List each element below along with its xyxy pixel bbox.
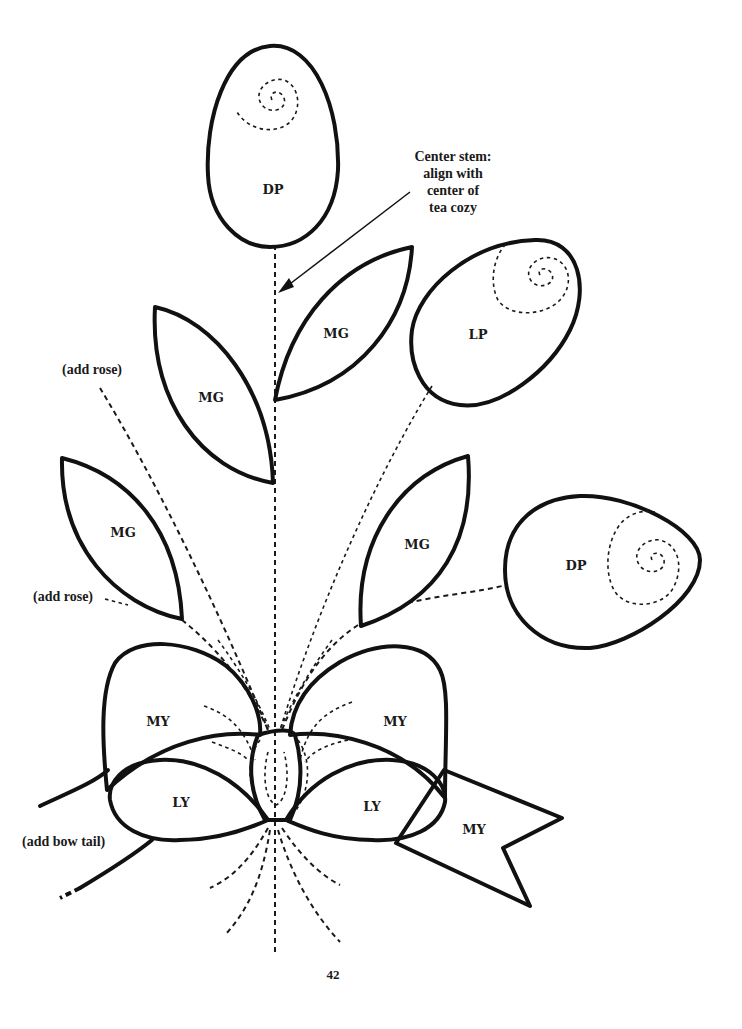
top-petal-piece: DP bbox=[208, 46, 338, 247]
spiral-guide bbox=[608, 511, 679, 604]
note-line: center of bbox=[427, 183, 480, 198]
piece-label: LY bbox=[363, 799, 381, 814]
upper-left-leaf-piece: MG bbox=[155, 307, 273, 483]
spiral-guide bbox=[493, 245, 568, 313]
piece-label: MG bbox=[323, 326, 349, 341]
piece-label: DP bbox=[565, 558, 586, 573]
lower-left-leaf-stem bbox=[182, 620, 268, 730]
note-line: align with bbox=[423, 166, 483, 181]
piece-label: LY bbox=[172, 795, 190, 810]
piece-label: LP bbox=[469, 327, 488, 342]
add-rose-note-upper: (add rose) bbox=[62, 362, 122, 378]
piece-label: MY bbox=[146, 714, 170, 729]
page-number: 42 bbox=[327, 967, 340, 982]
note-line: tea cozy bbox=[429, 200, 477, 215]
left-tail-upper-edge bbox=[40, 770, 108, 806]
fold-line bbox=[305, 740, 348, 762]
spiral-guide bbox=[236, 79, 298, 129]
light-petal-piece: LP bbox=[411, 240, 580, 405]
piece-label: MY bbox=[383, 714, 407, 729]
bow-left-inner-piece: LY bbox=[110, 760, 268, 840]
upper-left-rose-stem bbox=[100, 388, 268, 730]
lower-right-leaf-piece: MG bbox=[360, 456, 468, 626]
piece-label: DP bbox=[262, 182, 283, 197]
piece-label: MG bbox=[404, 537, 430, 552]
piece-label: MG bbox=[198, 390, 224, 405]
tail-fan-line bbox=[278, 830, 340, 942]
add-bow-tail-note: (add bow tail) bbox=[22, 834, 106, 850]
piece-label: MY bbox=[462, 822, 486, 837]
center-stem-note: Center stem: align with center of tea co… bbox=[414, 149, 491, 215]
arrowhead-icon bbox=[278, 278, 294, 293]
fold-line bbox=[300, 702, 352, 760]
light-petal-stem bbox=[280, 386, 432, 730]
pattern-page: DP MG LP MG MG MG DP MY bbox=[0, 0, 742, 1029]
add-rose-note-lower: (add rose) bbox=[33, 589, 93, 605]
tail-fan-line bbox=[225, 830, 270, 935]
upper-right-leaf-piece: MG bbox=[275, 247, 412, 400]
stem-lines bbox=[100, 245, 506, 955]
fold-line bbox=[212, 742, 248, 760]
note-line: Center stem: bbox=[414, 149, 491, 164]
bow-right-tail-piece: MY bbox=[396, 770, 562, 906]
pattern-drawing: DP MG LP MG MG MG DP MY bbox=[0, 0, 742, 1029]
lower-left-rose-stem bbox=[105, 599, 128, 605]
piece-label: MG bbox=[110, 525, 136, 540]
left-tail-continuation bbox=[60, 888, 80, 898]
right-petal-piece: DP bbox=[505, 496, 700, 648]
